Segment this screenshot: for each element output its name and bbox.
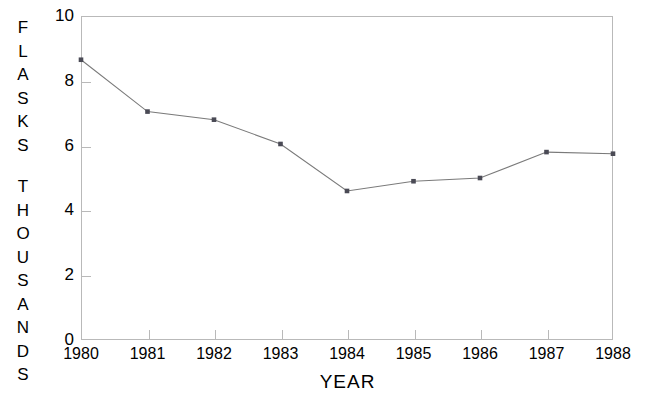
- data-point-marker: [145, 109, 150, 114]
- x-axis-title-text: YEAR: [320, 371, 376, 393]
- y-axis-title-letter: K: [8, 110, 38, 134]
- data-point-marker: [411, 179, 416, 184]
- data-point-marker: [611, 151, 616, 156]
- data-series: [81, 16, 613, 340]
- x-axis-tick-label: 1988: [578, 345, 647, 363]
- y-axis-title-letter: A: [8, 293, 38, 317]
- y-axis-tick-label: 4: [30, 200, 74, 220]
- x-axis-title: YEAR: [0, 371, 647, 393]
- x-axis-tick-label: 1985: [379, 345, 449, 363]
- y-axis-title-gap: [8, 157, 38, 175]
- x-axis-tick-label: 1987: [512, 345, 582, 363]
- y-axis-tick-label: 10: [30, 6, 74, 26]
- x-axis-tick-label: 1982: [179, 345, 249, 363]
- y-axis-tick-label: 6: [30, 136, 74, 156]
- data-point-marker: [478, 176, 483, 181]
- x-axis-tick-label: 1986: [445, 345, 515, 363]
- y-axis-title-letter: O: [8, 222, 38, 246]
- y-axis-tick-label: 2: [30, 265, 74, 285]
- data-point-marker: [79, 57, 84, 62]
- y-axis-title-letter: T: [8, 175, 38, 199]
- data-point-marker: [544, 150, 549, 155]
- data-point-marker: [278, 142, 283, 147]
- x-axis-tick-label: 1983: [246, 345, 316, 363]
- x-axis-tick-label: 1984: [312, 345, 382, 363]
- data-point-marker: [212, 117, 217, 122]
- data-point-marker: [345, 189, 350, 194]
- line-chart: FLASKSTHOUSANDS 0246810 1980198119821983…: [0, 0, 647, 407]
- x-axis-tick-label: 1981: [113, 345, 183, 363]
- y-axis-tick-label: 8: [30, 71, 74, 91]
- x-axis-tick-label: 1980: [46, 345, 116, 363]
- series-line: [81, 60, 613, 191]
- y-axis-title-letter: L: [8, 40, 38, 64]
